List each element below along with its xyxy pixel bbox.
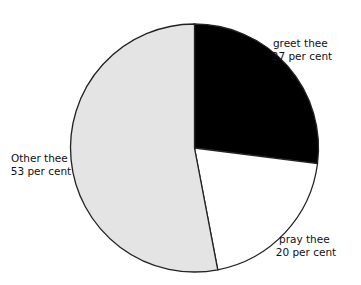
slice-label-greet-thee-value: 27 per cent [272,50,332,62]
slice-label-other-thee: Other thee 53 per cent [11,152,71,177]
slice-label-pray-thee-name: pray thee [279,233,330,245]
slice-label-other-thee-name: Other thee [11,152,68,164]
pie-chart: greet thee 27 per cent pray thee 20 per … [0,0,361,285]
slice-label-pray-thee: pray thee 20 per cent [276,233,336,258]
slice-label-greet-thee: greet thee 27 per cent [272,37,332,62]
slice-label-greet-thee-name: greet thee [273,37,328,49]
slice-label-other-thee-value: 53 per cent [11,165,71,177]
slice-label-pray-thee-value: 20 per cent [276,246,336,258]
